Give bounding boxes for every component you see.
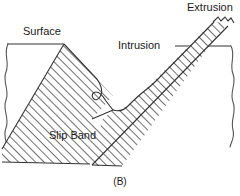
break-line-left xyxy=(5,44,8,152)
label-slip-band: Slip Band xyxy=(49,129,96,141)
figure-caption: (B) xyxy=(0,176,240,187)
label-intrusion: Intrusion xyxy=(118,39,160,51)
label-extrusion: Extrusion xyxy=(187,1,233,13)
label-surface: Surface xyxy=(23,25,61,37)
figure-slip-band-intrusion-extrusion: Surface Intrusion Extrusion Slip Band (B… xyxy=(0,0,240,196)
break-line-right xyxy=(230,46,234,147)
